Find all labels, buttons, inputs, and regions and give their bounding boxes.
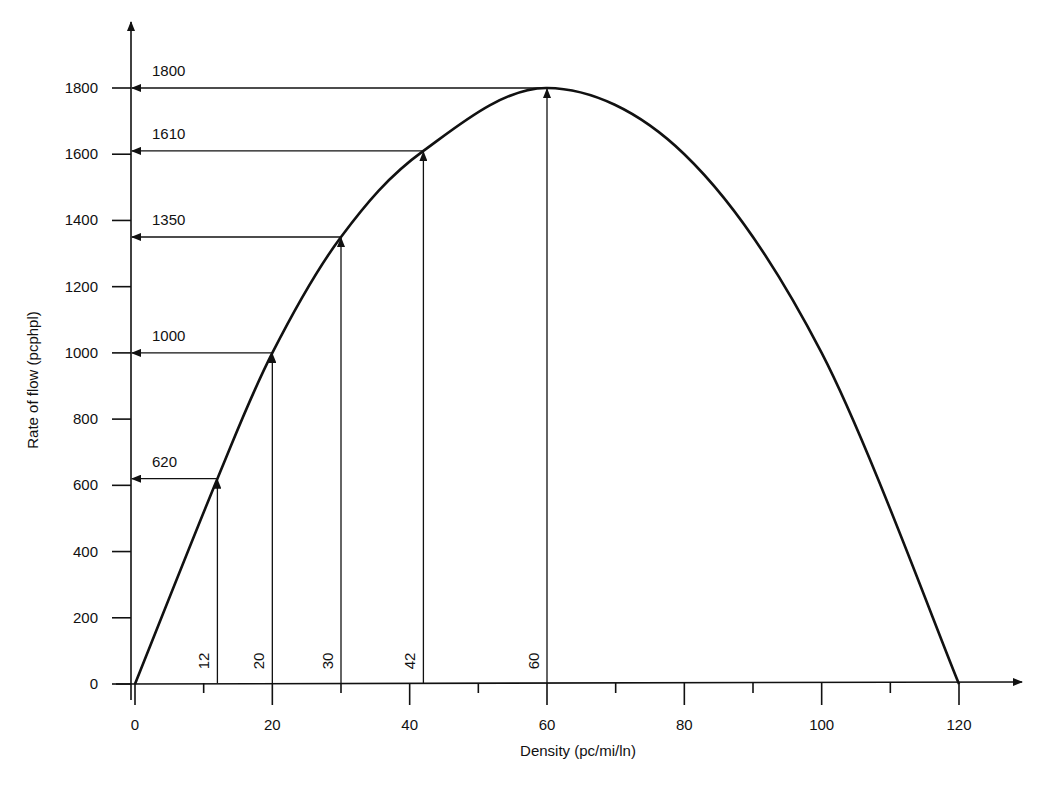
y-tick-label: 1000 — [65, 344, 98, 361]
x-tick-label: 0 — [131, 716, 139, 733]
y-axis: 020040060080010001200140016001800 Rate o… — [24, 22, 131, 700]
density-annotation-label: 60 — [525, 653, 542, 670]
x-tick-label: 100 — [809, 716, 834, 733]
y-tick-label: 1200 — [65, 278, 98, 295]
flow-annotation-label: 1610 — [152, 125, 185, 142]
y-axis-title: Rate of flow (pcphpl) — [24, 311, 41, 449]
flow-density-chart: 020040060080010001200140016001800 Rate o… — [0, 0, 1039, 785]
x-tick-label: 20 — [264, 716, 281, 733]
annotation-arrows: 62012100020135030161042180060 — [132, 62, 547, 683]
y-tick-label: 1400 — [65, 211, 98, 228]
y-tick-label: 800 — [73, 410, 98, 427]
flow-annotation-label: 1800 — [152, 62, 185, 79]
density-annotation-label: 20 — [250, 653, 267, 670]
x-axis-title: Density (pc/mi/ln) — [520, 742, 636, 759]
density-annotation-label: 42 — [401, 653, 418, 670]
annotation-20: 100020 — [132, 327, 272, 683]
y-tick-label: 200 — [73, 609, 98, 626]
flow-annotation-label: 620 — [152, 453, 177, 470]
density-annotation-label: 12 — [195, 653, 212, 670]
y-tick-label: 600 — [73, 476, 98, 493]
y-tick-label: 0 — [90, 675, 98, 692]
x-axis-ticks: 020406080100120 — [131, 683, 972, 733]
y-tick-label: 1800 — [65, 79, 98, 96]
annotation-42: 161042 — [132, 125, 423, 683]
x-tick-label: 60 — [539, 716, 556, 733]
density-annotation-label: 30 — [319, 653, 336, 670]
annotation-12: 62012 — [132, 453, 217, 683]
x-tick-label: 40 — [401, 716, 418, 733]
annotation-60: 180060 — [132, 62, 547, 683]
flow-annotation-label: 1350 — [152, 211, 185, 228]
y-tick-label: 1600 — [65, 145, 98, 162]
x-tick-label: 120 — [946, 716, 971, 733]
y-axis-ticks: 020040060080010001200140016001800 — [65, 79, 131, 692]
y-tick-label: 400 — [73, 543, 98, 560]
flow-annotation-label: 1000 — [152, 327, 185, 344]
x-tick-label: 80 — [676, 716, 693, 733]
x-axis: 020406080100120 Density (pc/mi/ln) — [116, 682, 1022, 759]
